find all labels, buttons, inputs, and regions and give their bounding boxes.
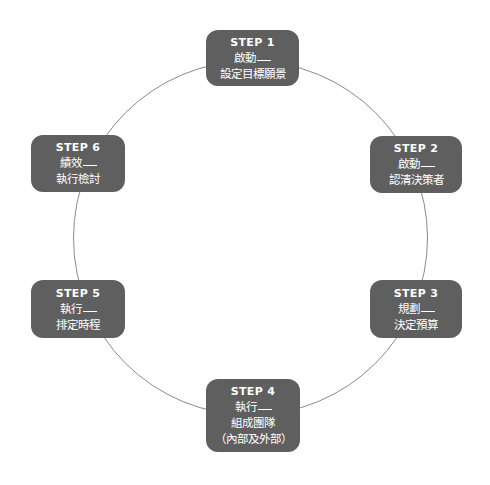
step-6-phase: 績效 xyxy=(60,155,97,171)
step-2-phase: 啟動 xyxy=(398,156,435,172)
step-3-description: 決定預算 xyxy=(394,317,438,333)
step-4-title: STEP 4 xyxy=(231,384,275,399)
step-3-box: STEP 3 規劃 決定預算 xyxy=(370,280,462,338)
step-4-description: 組成團隊 xyxy=(231,415,275,431)
step-6-title: STEP 6 xyxy=(56,140,100,155)
step-5-box: STEP 5 執行 排定時程 xyxy=(31,280,125,338)
step-3-phase: 規劃 xyxy=(398,301,435,317)
step-5-description: 排定時程 xyxy=(56,317,100,333)
step-6-description: 執行檢討 xyxy=(56,171,100,187)
step-2-box: STEP 2 啟動 認清決策者 xyxy=(370,136,462,193)
step-1-box: STEP 1 啟動 設定目標願景 xyxy=(206,30,299,86)
step-1-phase: 啟動 xyxy=(234,50,271,66)
step-4-phase: 執行 xyxy=(235,399,272,415)
step-4-description-note: （內部及外部） xyxy=(215,431,292,447)
step-6-box: STEP 6 績效 執行檢討 xyxy=(31,135,125,192)
step-2-title: STEP 2 xyxy=(394,141,438,156)
step-5-phase: 執行 xyxy=(60,301,97,317)
step-5-title: STEP 5 xyxy=(56,286,100,301)
step-1-title: STEP 1 xyxy=(230,35,274,50)
step-2-description: 認清決策者 xyxy=(389,172,444,188)
step-3-title: STEP 3 xyxy=(394,286,438,301)
step-1-description: 設定目標願景 xyxy=(220,66,286,82)
step-4-box: STEP 4 執行 組成團隊 （內部及外部） xyxy=(206,379,300,452)
cycle-diagram: STEP 1 啟動 設定目標願景 STEP 2 啟動 認清決策者 STEP 3 … xyxy=(0,0,490,485)
